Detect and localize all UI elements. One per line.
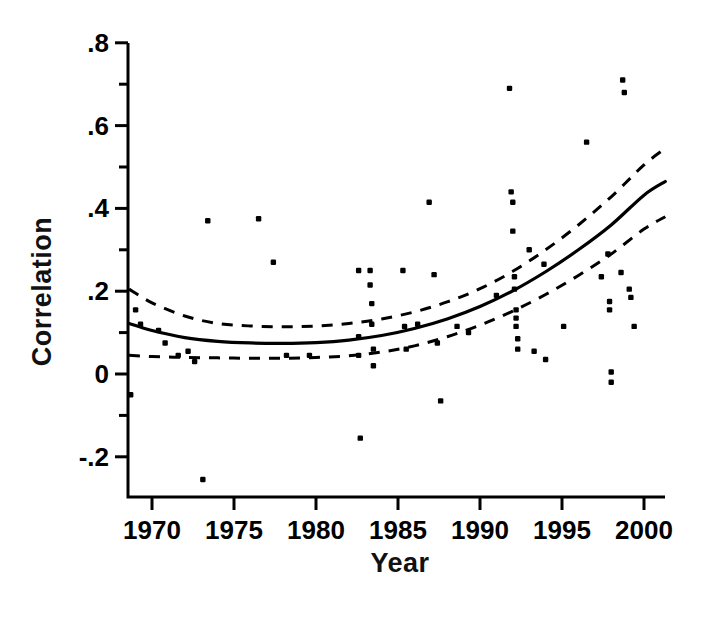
data-point [510,228,515,233]
y-axis-title: Correlation [27,162,58,422]
data-point [435,340,440,345]
data-point [185,349,190,354]
data-point [541,262,546,267]
data-point [138,322,143,327]
data-point [512,274,517,279]
data-point [256,216,261,221]
y-tick-label: -.2 [79,442,109,472]
y-axis-tick-labels: -.20.2.4.6.8 [79,28,110,472]
data-point [622,90,627,95]
data-point [176,353,181,358]
data-point [356,353,361,358]
x-tick-label: 1970 [123,515,181,545]
x-axis-tick-labels: 1970197519801985199019952000 [123,515,673,545]
data-point [605,251,610,256]
data-point [466,330,471,335]
data-point [369,301,374,306]
data-point [402,324,407,329]
data-point [426,199,431,204]
y-tick-label: .4 [87,193,109,223]
lower-confidence-band [129,217,665,359]
chart-figure: -.20.2.4.6.8 197019751980198519901995200… [0,0,705,617]
data-point [607,299,612,304]
data-point [358,435,363,440]
data-point [271,260,276,265]
data-point [513,315,518,320]
data-point [527,247,532,252]
data-point [507,86,512,91]
data-point [415,322,420,327]
data-point-group [128,77,637,482]
data-point [307,353,312,358]
data-point [584,139,589,144]
x-axis-major-ticks [152,497,644,510]
x-tick-label: 2000 [615,515,673,545]
data-point [133,307,138,312]
data-point [609,369,614,374]
x-tick-label: 1980 [287,515,345,545]
data-point [205,218,210,223]
data-point [371,363,376,368]
data-point [494,293,499,298]
y-tick-label: .2 [87,276,109,306]
data-point [356,334,361,339]
data-point [438,398,443,403]
data-point [367,282,372,287]
data-point [513,324,518,329]
data-point [192,359,197,364]
data-point [515,336,520,341]
x-axis-title: Year [330,548,470,579]
data-point [512,286,517,291]
data-point [156,328,161,333]
data-point [369,322,374,327]
scatter-plot-canvas: -.20.2.4.6.8 197019751980198519901995200… [0,0,705,617]
data-point [356,268,361,273]
data-point [400,268,405,273]
data-point [599,274,604,279]
data-point [620,77,625,82]
data-point [531,349,536,354]
fitted-regression-curve [129,181,665,343]
y-tick-label: .8 [87,28,109,58]
data-point [371,346,376,351]
data-point [513,307,518,312]
data-point [367,268,372,273]
axis-spine [128,43,665,497]
data-point [454,324,459,329]
x-tick-label: 1995 [533,515,591,545]
data-point [200,477,205,482]
data-point [510,199,515,204]
data-point [627,286,632,291]
y-tick-label: 0 [95,359,109,389]
x-tick-label: 1985 [369,515,427,545]
data-point [404,346,409,351]
data-point [543,357,548,362]
upper-confidence-band [129,148,665,326]
data-point [284,353,289,358]
data-point [628,295,633,300]
data-point [618,270,623,275]
data-point [128,392,133,397]
x-tick-label: 1990 [451,515,509,545]
data-point [515,346,520,351]
data-point [607,307,612,312]
data-point [561,324,566,329]
data-point [431,272,436,277]
data-point [609,380,614,385]
data-point [162,340,167,345]
data-point [508,189,513,194]
y-tick-label: .6 [87,111,109,141]
data-point [631,324,636,329]
x-tick-label: 1975 [205,515,263,545]
